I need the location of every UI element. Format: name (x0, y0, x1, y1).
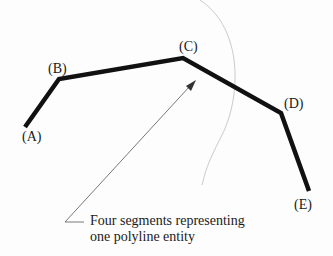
caption-line-1: Four segments representing (90, 213, 245, 229)
background-arc (200, 0, 235, 185)
arrowhead-icon (186, 80, 196, 91)
point-label-e: (E) (294, 198, 312, 212)
caption: Four segments representing one polyline … (90, 213, 245, 245)
leader-line (65, 86, 190, 222)
point-label-c: (C) (179, 40, 198, 54)
caption-line-2: one polyline entity (90, 229, 245, 245)
polyline-entity (25, 58, 309, 191)
point-label-d: (D) (284, 97, 303, 111)
polyline-diagram: (A) (B) (C) (D) (E) Four segments repres… (0, 0, 333, 256)
point-label-b: (B) (48, 62, 67, 76)
point-label-a: (A) (22, 130, 41, 144)
